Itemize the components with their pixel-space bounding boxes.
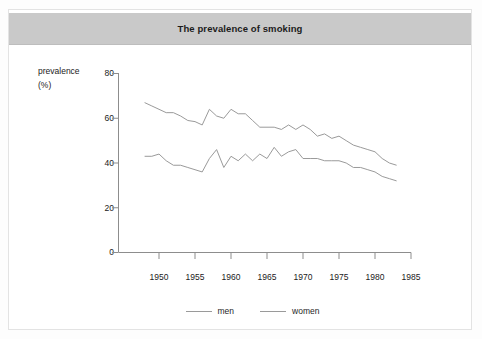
chart-plot-area: prevalence (%) 80 60 40 20 0 1950 1955 1… xyxy=(0,0,482,339)
legend-label-men: men xyxy=(218,306,235,316)
legend-swatch-men xyxy=(186,311,212,312)
legend-entry-women: women xyxy=(260,306,319,316)
chart-legend: men women xyxy=(150,303,355,319)
axis-lines xyxy=(119,73,412,253)
series-line-women xyxy=(145,147,397,181)
series-line-men xyxy=(145,103,397,166)
y-axis-ticks xyxy=(112,74,119,253)
page-background: The prevalence of smoking prevalence (%)… xyxy=(0,0,482,339)
chart-canvas xyxy=(0,0,482,339)
x-axis-ticks xyxy=(159,253,411,260)
legend-entry-men: men xyxy=(186,306,235,316)
legend-swatch-women xyxy=(260,311,286,312)
legend-label-women: women xyxy=(292,306,319,316)
